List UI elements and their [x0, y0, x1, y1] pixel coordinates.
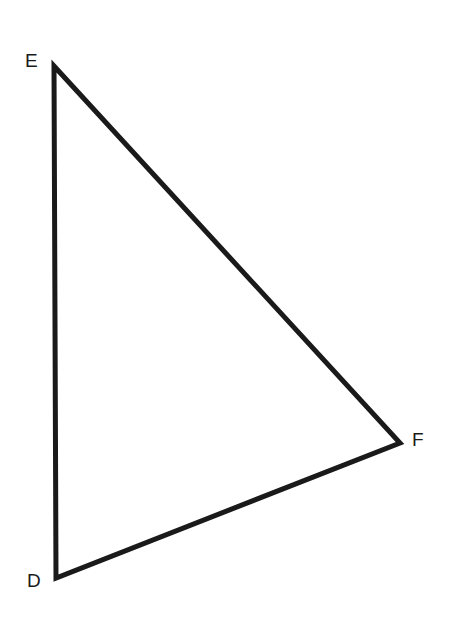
triangle-diagram: E F D: [0, 0, 450, 622]
vertex-label-d: D: [27, 570, 41, 591]
triangle-def: [54, 66, 400, 578]
vertex-label-e: E: [25, 50, 38, 71]
vertex-label-f: F: [412, 429, 424, 450]
